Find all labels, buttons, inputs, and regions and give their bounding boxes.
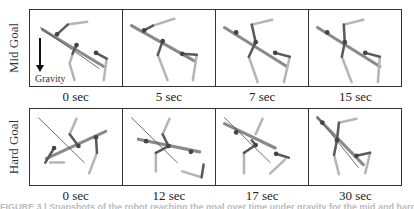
robot-limb — [89, 153, 97, 173]
row-label-text: Mid Goal — [6, 23, 22, 73]
robot-joint — [144, 139, 149, 144]
robot-joint — [253, 143, 258, 148]
snapshot-panel — [122, 109, 215, 185]
robot-joint — [253, 40, 258, 45]
goal-line — [224, 118, 270, 163]
gravity-arrow-icon — [39, 38, 41, 66]
robot-joint — [363, 51, 368, 56]
row-label-text: Hard Goal — [6, 120, 22, 175]
robot-limb — [68, 22, 87, 25]
robot-limb — [158, 55, 168, 80]
time-label: 15 sec — [309, 89, 402, 105]
robot-joint — [94, 51, 99, 56]
robot-limb — [182, 171, 201, 177]
robot-joint — [76, 144, 81, 149]
snapshot-panel — [308, 109, 401, 185]
robot-limb — [163, 119, 170, 135]
robot-joint — [325, 30, 330, 35]
robot-limb — [193, 55, 197, 80]
snapshot-panel: Gravity — [30, 10, 122, 86]
robot-joint — [52, 146, 57, 151]
robot-limb — [252, 20, 272, 25]
snapshot-panel — [30, 109, 122, 185]
robot-joint — [273, 51, 278, 56]
robot-body — [224, 124, 275, 148]
robot-snapshot-drawing — [30, 109, 122, 185]
robot-snapshot-drawing — [123, 109, 215, 185]
robot-joint — [55, 32, 60, 37]
robot-body — [224, 28, 286, 67]
row-label-mid-goal: Mid Goal — [2, 9, 26, 87]
robot-joint — [234, 30, 239, 35]
robot-limb — [344, 20, 363, 25]
gravity-arrow-head-icon — [36, 65, 44, 72]
robot-joint — [189, 150, 194, 155]
robot-joint — [94, 135, 99, 140]
figure-caption: FIGURE 3 | Snapshots of the robot reachi… — [0, 202, 414, 209]
robot-limb — [339, 119, 357, 123]
robot-limb — [153, 19, 174, 26]
robot-limb — [70, 64, 75, 81]
gravity-label: Gravity — [35, 73, 66, 84]
time-labels-mid-goal: 0 sec 5 sec 7 sec 15 sec — [29, 89, 402, 105]
robot-limb — [284, 57, 290, 82]
robot-limb-proximal — [96, 137, 97, 153]
snapshot-strip-hard-goal — [29, 108, 402, 186]
robot-limb — [104, 59, 107, 80]
robot-snapshot-drawing — [216, 10, 308, 86]
snapshot-panel — [308, 10, 401, 86]
robot-limb — [378, 57, 380, 82]
robot-limb — [256, 119, 263, 135]
robot-limb — [70, 54, 73, 64]
time-label: 7 sec — [216, 89, 309, 105]
robot-joint — [74, 43, 79, 48]
robot-limb — [70, 119, 77, 135]
robot-limb-proximal — [344, 25, 345, 43]
robot-snapshot-drawing — [216, 109, 308, 185]
robot-snapshot-drawing — [309, 109, 401, 185]
robot-limb-proximal — [252, 25, 256, 43]
robot-joint — [274, 151, 279, 156]
robot-joint — [160, 39, 165, 44]
robot-joint — [166, 144, 171, 149]
robot-snapshot-drawing — [123, 10, 215, 86]
robot-joint — [142, 28, 147, 33]
snapshot-panel — [215, 109, 308, 185]
robot-joint — [234, 130, 239, 135]
goal-line — [38, 118, 84, 163]
snapshot-panel — [215, 10, 308, 86]
robot-limb — [342, 57, 352, 82]
robot-limb — [270, 160, 285, 174]
row-label-hard-goal: Hard Goal — [2, 108, 26, 186]
robot-joint — [180, 52, 185, 57]
snapshot-strip-mid-goal: Gravity — [29, 9, 402, 87]
robot-joint — [342, 40, 347, 45]
time-label: 5 sec — [122, 89, 215, 105]
robot-limb — [365, 153, 370, 173]
time-label: 0 sec — [29, 89, 122, 105]
robot-limb-proximal — [202, 165, 204, 178]
robot-snapshot-drawing — [309, 10, 401, 86]
snapshot-panel — [122, 10, 215, 86]
robot-limb — [249, 57, 258, 82]
robot-limb — [334, 155, 339, 174]
robot-joint — [354, 153, 359, 158]
robot-joint — [320, 120, 325, 125]
robot-joint — [335, 138, 340, 143]
